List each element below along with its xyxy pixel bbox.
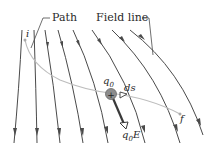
arrow-icon (76, 40, 80, 47)
arrow-icon (173, 124, 178, 132)
force-vector (112, 96, 124, 124)
charge-subscript: 0 (109, 81, 113, 89)
force-vector-text: E (133, 129, 140, 140)
force-arrowhead-icon (120, 122, 128, 129)
field-line-7 (112, 30, 180, 143)
arrow-icon (119, 36, 125, 42)
field-line-6 (92, 30, 145, 143)
field-line-2 (34, 30, 37, 143)
final-point-label: f (180, 114, 184, 124)
initial-point-label: i (26, 29, 29, 39)
field-line-1 (14, 30, 22, 143)
displacement-label: ds (124, 83, 136, 93)
field-line-3 (45, 30, 60, 143)
field-line-8 (130, 30, 203, 135)
arrow-icon (60, 41, 63, 48)
force-label: q0E (122, 130, 140, 143)
displacement-text: ds (124, 82, 136, 93)
arrow-icon (97, 38, 102, 45)
arrow-icon (13, 128, 17, 136)
charge-label: q0 (103, 76, 114, 89)
arrow-icon (35, 128, 39, 136)
field-line-label: Field line (96, 12, 148, 23)
charge-sign: + (107, 90, 115, 100)
arrow-icon (196, 118, 201, 126)
path-label: Path (52, 12, 77, 23)
